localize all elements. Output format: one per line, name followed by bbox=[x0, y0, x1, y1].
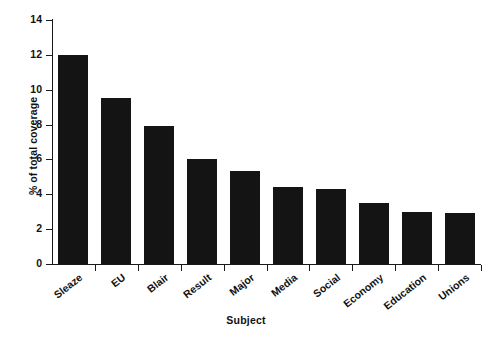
y-tick-label: 12 bbox=[30, 48, 42, 60]
bar-eu bbox=[101, 98, 131, 264]
x-label-text: Social bbox=[310, 271, 342, 300]
bar-major bbox=[230, 171, 260, 264]
bar-result bbox=[187, 159, 217, 264]
x-tick bbox=[267, 265, 268, 271]
y-tick-label: 8 bbox=[36, 118, 42, 130]
y-tick-label: 14 bbox=[30, 13, 42, 25]
x-tick bbox=[181, 265, 182, 271]
x-label-text: Result bbox=[181, 271, 214, 300]
x-tick bbox=[395, 265, 396, 271]
y-tick-label: 0 bbox=[36, 257, 42, 269]
bar-economy bbox=[359, 203, 389, 264]
bar-sleaze bbox=[58, 55, 88, 264]
x-axis-title: Subject bbox=[0, 314, 492, 326]
bar-blair bbox=[144, 126, 174, 264]
x-label-text: Major bbox=[227, 271, 256, 298]
bar-media bbox=[273, 187, 303, 264]
x-label-text: EU bbox=[109, 271, 128, 289]
x-label-text: Media bbox=[268, 271, 299, 299]
y-tick-label: 10 bbox=[30, 83, 42, 95]
bar-education bbox=[402, 212, 432, 264]
x-label-text: Unions bbox=[435, 271, 470, 302]
y-tick-label: 4 bbox=[36, 187, 42, 199]
bar-chart: % of total coverage 14121086420 SleazeEU… bbox=[0, 0, 492, 345]
bars-layer bbox=[52, 20, 481, 264]
y-tick-label: 6 bbox=[36, 152, 42, 164]
x-tick bbox=[224, 265, 225, 271]
x-tick bbox=[352, 265, 353, 271]
x-tick bbox=[309, 265, 310, 271]
y-tick-label: 2 bbox=[36, 222, 42, 234]
x-tick bbox=[95, 265, 96, 271]
y-tick-0: 0 bbox=[46, 264, 53, 265]
bar-unions bbox=[445, 213, 475, 264]
x-label-text: Sleaze bbox=[52, 271, 85, 301]
x-tick bbox=[438, 265, 439, 271]
x-tick bbox=[138, 265, 139, 271]
x-tick bbox=[481, 265, 482, 271]
bar-social bbox=[316, 189, 346, 264]
x-label-text: Blair bbox=[145, 271, 171, 295]
